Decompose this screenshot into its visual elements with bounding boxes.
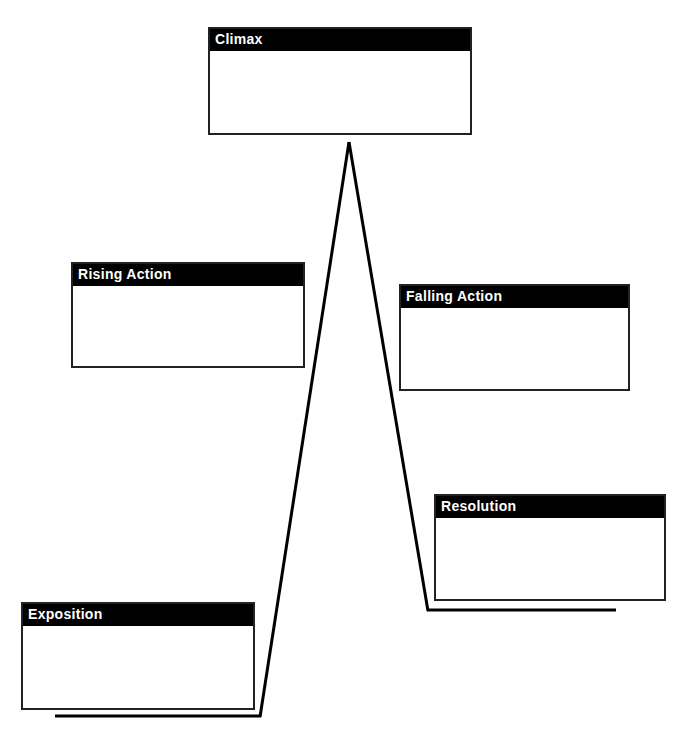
climax-header: Climax <box>210 29 470 51</box>
exposition-header: Exposition <box>23 604 253 626</box>
falling-action-header: Falling Action <box>401 286 628 308</box>
rising-action-box: Rising Action <box>71 262 305 368</box>
exposition-box: Exposition <box>21 602 255 710</box>
resolution-header: Resolution <box>436 496 664 518</box>
resolution-box: Resolution <box>434 494 666 601</box>
rising-action-line <box>260 142 349 717</box>
rising-action-header: Rising Action <box>73 264 303 286</box>
climax-box: Climax <box>208 27 472 135</box>
falling-action-box: Falling Action <box>399 284 630 391</box>
